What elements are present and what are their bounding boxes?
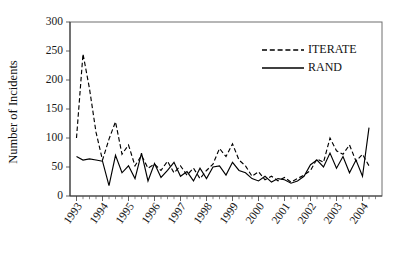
legend-label-rand: RAND — [308, 60, 342, 74]
y-tick-label-250: 250 — [46, 44, 64, 56]
y-tick-label-0: 0 — [57, 189, 63, 201]
incidents-line-chart: 050100150200250300 199319941995199619971… — [0, 0, 410, 256]
y-tick-label-300: 300 — [46, 15, 64, 27]
chart-figure: 050100150200250300 199319941995199619971… — [0, 0, 410, 256]
y-tick-label-50: 50 — [52, 160, 64, 172]
y-tick-label-200: 200 — [46, 73, 64, 85]
legend-label-iterate: ITERATE — [308, 42, 357, 56]
y-tick-label-150: 150 — [46, 102, 64, 114]
y-axis-title: Number of Incidents — [6, 60, 20, 164]
y-tick-label-100: 100 — [46, 131, 64, 143]
